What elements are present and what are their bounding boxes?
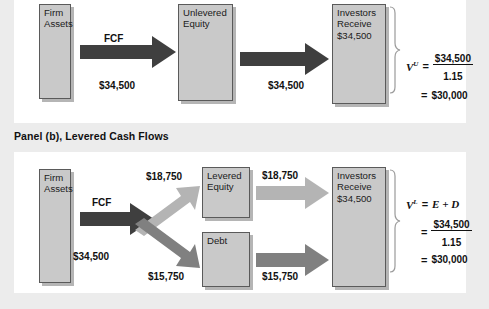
box-levered-equity[interactable]: Levered Equity <box>202 167 250 218</box>
formula-equals: = <box>422 198 428 210</box>
panel-a-background <box>14 0 466 123</box>
panel-b-title: Panel (b), Levered Cash Flows <box>14 130 169 142</box>
formula-result: $30,000 <box>431 90 467 101</box>
formula-fraction: $34,500 1.15 <box>433 48 473 84</box>
cash-flow-diagram: Panel (b), Levered Cash Flows Firm Asset… <box>0 0 489 309</box>
formula-result: $30,000 <box>431 254 467 265</box>
formula-second-equals: = <box>421 226 427 238</box>
label-fcf-amount-panel-a: $34,500 <box>99 80 135 91</box>
box-investors-receive-panel-a[interactable]: Investors Receive $34,500 <box>332 4 386 104</box>
box-firm-assets-panel-a[interactable]: Firm Assets <box>39 4 71 99</box>
label-debt-split-amount: $15,750 <box>148 271 184 282</box>
box-label: Firm Assets <box>44 7 68 30</box>
box-investors-receive-panel-b[interactable]: Investors Receive $34,500 <box>332 167 386 287</box>
formula-levered-value: VL = E + D = $34,500 1.15 = $30,000 <box>406 198 472 266</box>
label-fcf-amount-panel-b: $34,500 <box>73 251 109 262</box>
formula-variable-vu: VU <box>406 60 418 73</box>
box-label: Investors Receive $34,500 <box>337 7 383 41</box>
formula-unlevered-value: VU = $34,500 1.15 = $30,000 <box>406 48 473 101</box>
formula-equals: = <box>422 60 428 72</box>
box-label: Unlevered Equity <box>183 7 230 30</box>
box-label: Investors Receive $34,500 <box>337 170 383 204</box>
label-fcf-panel-b: FCF <box>92 197 111 208</box>
label-fcf-panel-a: FCF <box>104 33 123 44</box>
formula-fraction: $34,500 1.15 <box>431 214 471 250</box>
formula-variable-vl: VL <box>406 198 418 211</box>
formula-denominator: 1.15 <box>442 236 461 248</box>
formula-denominator: 1.15 <box>443 70 462 82</box>
formula-result-equals: = <box>421 89 427 101</box>
label-equity-split-amount: $18,750 <box>146 171 182 182</box>
box-firm-assets-panel-b[interactable]: Firm Assets <box>39 169 71 283</box>
formula-result-equals: = <box>421 254 427 266</box>
box-unlevered-equity[interactable]: Unlevered Equity <box>178 4 233 101</box>
box-label: Levered Equity <box>207 170 247 193</box>
box-label: Debt <box>207 235 247 246</box>
formula-numerator: $34,500 <box>431 219 471 231</box>
box-debt[interactable]: Debt <box>202 232 250 287</box>
label-equity-to-investors-panel-a: $34,500 <box>268 80 304 91</box>
label-debt-to-investors-panel-b: $15,750 <box>262 271 298 282</box>
formula-components: E + D <box>432 198 459 210</box>
box-label: Firm Assets <box>44 172 68 195</box>
formula-numerator: $34,500 <box>433 53 473 65</box>
label-equity-to-investors-panel-b: $18,750 <box>262 170 298 181</box>
